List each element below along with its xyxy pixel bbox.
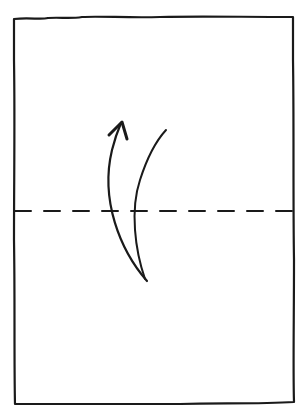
fold-arrow-curve-right	[135, 130, 166, 279]
fold-diagram	[0, 0, 298, 414]
fold-arrow-curve-left	[108, 123, 147, 281]
